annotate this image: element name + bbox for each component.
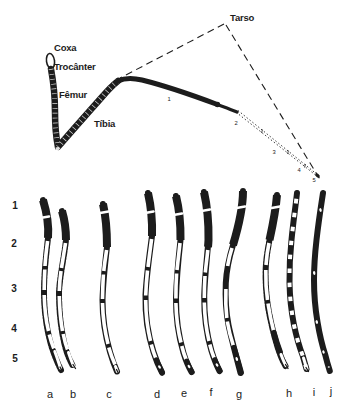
white-segment (103, 275, 104, 300)
head-band (100, 212, 109, 214)
figure-canvas: Coxa Trocânter Fêmur Tíbia Tarso 1 2 3 4… (0, 0, 349, 411)
femur-tibia-shape (51, 69, 118, 147)
label-tibia: Tíbia (94, 118, 116, 129)
letter-d: d (154, 388, 160, 400)
leg-outline (289, 193, 306, 369)
label-tarso: Tarso (230, 12, 255, 23)
insect-leg-figure: Coxa Trocânter Fêmur Tíbia Tarso 1 2 3 4… (0, 0, 349, 411)
specimen-b-figure (59, 211, 76, 369)
row-number-2: 2 (11, 238, 17, 249)
pale-spot (328, 366, 330, 368)
leg-head (103, 204, 107, 247)
specimen-d-figure (145, 193, 162, 373)
tarsomere-2-5-upper-edge (238, 111, 316, 174)
specimen-j-figure (313, 193, 330, 371)
leg-head (233, 191, 243, 245)
leg-head (43, 200, 48, 238)
head-band (202, 210, 211, 212)
head-band (174, 214, 183, 216)
leg-head (62, 211, 66, 240)
leg-schematic: Coxa Trocânter Fêmur Tíbia Tarso 1 2 3 4… (45, 12, 321, 183)
white-segment (59, 271, 61, 291)
label-femur: Fêmur (59, 89, 88, 100)
leg-head (204, 192, 209, 247)
femur-tibia-texture (51, 69, 118, 147)
white-segment (44, 270, 45, 291)
letter-j: j (329, 385, 332, 397)
head-band (237, 207, 246, 209)
label-trocanter: Trocânter (54, 61, 96, 72)
specimen-f-figure (202, 192, 221, 371)
letter-f: f (209, 386, 213, 398)
leg-head (176, 196, 181, 240)
tarsomere-joint-knob (215, 102, 220, 107)
leg-head (148, 193, 152, 236)
leg-outline (314, 193, 330, 371)
specimen-e-figure (174, 196, 193, 372)
tarsomere-number-1: 1 (167, 96, 170, 102)
specimen-g-figure (226, 191, 245, 373)
tarsomere-number-5: 5 (312, 177, 315, 183)
white-segment (226, 289, 227, 318)
row-number-5: 5 (12, 353, 18, 364)
row-number-1: 1 (12, 200, 18, 211)
letter-g: g (236, 388, 242, 400)
white-segment (266, 270, 268, 300)
letter-c: c (106, 388, 112, 400)
row-number-3: 3 (11, 283, 17, 294)
tarsus-pointer-line-right (226, 25, 321, 181)
letter-a: a (47, 388, 54, 400)
letter-i: i (313, 386, 315, 398)
letter-e: e (181, 387, 187, 399)
label-coxa: Coxa (54, 42, 77, 53)
specimen-i-figure (289, 193, 308, 372)
tarsomere-2-5-lower-edge (239, 115, 318, 178)
tarsomere-number-4: 4 (297, 167, 301, 173)
white-segment (146, 271, 148, 296)
head-band (272, 207, 281, 209)
specimen-c-figure (100, 204, 119, 374)
row-number-4: 4 (11, 323, 17, 334)
tarsi-comparison-panel: 1 2 3 4 5 (11, 191, 332, 400)
tarsomere-number-3: 3 (272, 149, 275, 155)
black-segment (274, 333, 280, 353)
head-band (40, 217, 49, 219)
white-segment (205, 250, 208, 273)
leg-head (270, 195, 278, 240)
specimen-h-figure (266, 195, 288, 369)
white-segment (204, 276, 205, 298)
letter-h: h (286, 387, 292, 399)
tarsus-pointer-line-left (120, 24, 224, 78)
head-band (145, 212, 154, 214)
letter-b: b (70, 388, 76, 400)
tarsomere-number-2: 2 (234, 120, 237, 126)
white-segment (176, 274, 177, 299)
